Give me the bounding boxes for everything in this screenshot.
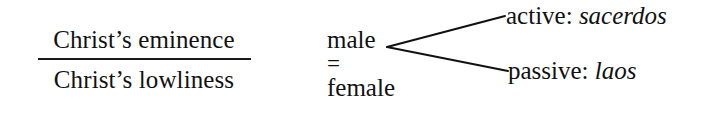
outcome-passive-term: laos <box>589 57 637 84</box>
pair-bottom-label: female <box>327 76 395 100</box>
branch-line-lower <box>387 47 508 71</box>
outcome-passive: passive: laos <box>508 57 636 85</box>
diagram-canvas: Christ’s eminence Christ’s lowliness mal… <box>0 0 719 118</box>
outcome-active-label: active: <box>506 2 573 29</box>
pair-equals-sign: = <box>327 52 395 76</box>
outcome-passive-label: passive: <box>508 57 589 84</box>
fraction-numerator: Christ’s eminence <box>36 24 252 58</box>
fraction-block: Christ’s eminence Christ’s lowliness <box>36 24 252 96</box>
pair-block: male = female <box>327 28 395 100</box>
fraction-denominator: Christ’s lowliness <box>36 60 252 96</box>
outcome-active: active: sacerdos <box>506 2 667 30</box>
outcome-active-term: sacerdos <box>573 2 667 29</box>
branch-line-upper <box>387 16 505 47</box>
pair-top-label: male <box>327 28 395 52</box>
